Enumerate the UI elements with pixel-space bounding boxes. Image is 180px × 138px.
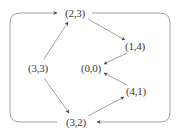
edge-41-to-00 [104, 73, 127, 85]
diagram-canvas: (2,3) (1,4) (0,0) (4,1) (3,2) (3,3) [0, 0, 180, 138]
edge-33-to-32 [44, 78, 69, 113]
node-label-2-3: (2,3) [64, 7, 86, 19]
edge-14-to-00 [104, 53, 127, 64]
edge-32-to-41 [88, 97, 124, 116]
node-label-1-4: (1,4) [124, 40, 146, 52]
node-label-3-2: (3,2) [65, 116, 87, 128]
node-label-0-0: (0,0) [80, 62, 102, 74]
node-label-4-1: (4,1) [125, 85, 147, 97]
node-label-3-3: (3,3) [27, 62, 49, 74]
edge-23-to-32-outer [92, 13, 170, 122]
edge-23-to-14 [88, 19, 125, 40]
edge-33-to-23 [44, 22, 68, 59]
